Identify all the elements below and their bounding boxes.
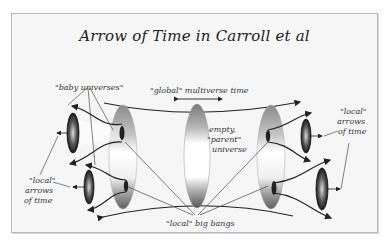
label-local-right-2: arrows bbox=[337, 117, 365, 126]
label-local-right-1: "local" bbox=[340, 107, 367, 116]
parent-universe-ellipse bbox=[184, 104, 210, 208]
label-local-left-3: of time bbox=[24, 196, 53, 205]
label-empty-parent-3: universe bbox=[212, 145, 247, 154]
label-local-big-bangs: "local" big bangs bbox=[166, 219, 235, 228]
label-empty-parent-1: empty, bbox=[209, 125, 236, 134]
label-local-right-3: of time bbox=[338, 127, 367, 136]
right-bubble-ellipse bbox=[257, 105, 285, 209]
label-local-left-1: "local" bbox=[29, 176, 56, 185]
label-baby-universes: "baby universes" bbox=[55, 83, 123, 92]
label-global-time: "global" multiverse time bbox=[150, 86, 249, 95]
label-local-left-2: arrows bbox=[25, 186, 53, 195]
left-bubble-ellipse bbox=[109, 105, 137, 209]
multiverse-diagram: "baby universes" "global" multiverse tim… bbox=[0, 0, 389, 251]
label-empty-parent-2: "parent" bbox=[207, 135, 241, 144]
